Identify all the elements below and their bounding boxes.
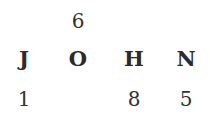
top-number-o: 6 <box>63 11 93 31</box>
letter-h: H <box>119 48 149 69</box>
bottom-number-h: 8 <box>119 89 149 109</box>
letter-n: N <box>171 48 201 69</box>
letter-o: O <box>63 48 93 69</box>
bottom-number-j: 1 <box>9 89 39 109</box>
letter-j: J <box>9 48 39 69</box>
bottom-number-n: 5 <box>171 89 201 109</box>
letter-number-puzzle: 6 J O H N 1 8 5 <box>0 0 210 119</box>
